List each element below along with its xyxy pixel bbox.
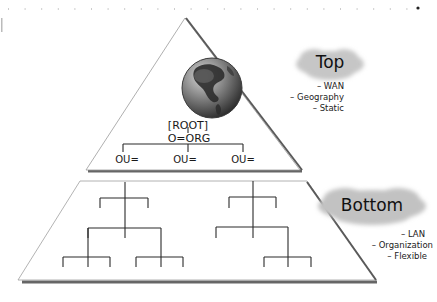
top-tier-bullets: – WAN – Geography – Static [290, 81, 344, 113]
bullet-geography: – Geography [290, 92, 344, 102]
root-label: [ROOT] [168, 120, 208, 131]
bullet-flexible: – Flexible [387, 251, 427, 261]
globe-icon [182, 58, 242, 118]
ou-label-3: OU= [231, 155, 255, 165]
bullet-lan: – LAN [401, 229, 425, 239]
top-tier-title: Top [316, 54, 345, 71]
bullet-organization: – Organization [372, 240, 433, 250]
bullet-static: – Static [313, 103, 344, 113]
ou-label-2: OU= [173, 155, 197, 165]
bottom-tier-title: Bottom [341, 197, 403, 214]
diagram-canvas: [ROOT] O=ORG OU= OU= OU= Top – WAN – Geo… [0, 0, 437, 302]
ou-label-1: OU= [115, 155, 139, 165]
org-label: O=ORG [168, 133, 211, 144]
bottom-tier-trapezoid [18, 181, 377, 282]
bottom-tier-bullets: – LAN – Organization – Flexible [372, 229, 433, 261]
bullet-wan: – WAN [317, 81, 344, 91]
dotted-ruler [1, 6, 420, 32]
